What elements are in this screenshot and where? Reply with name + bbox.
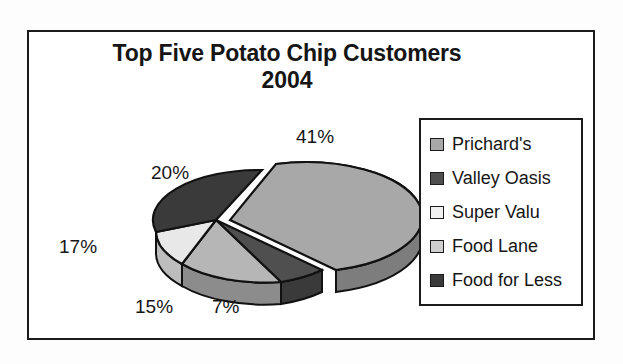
pie-label-food-for-less: 20%	[151, 162, 189, 184]
legend-swatch-icon-super-valu	[430, 206, 444, 219]
legend-swatch-icon-prichards	[430, 138, 444, 151]
pie-chart-graphic	[59, 112, 419, 327]
pie-label-super-valu: 17%	[59, 236, 97, 258]
chart-figure: Top Five Potato Chip Customers 2004	[0, 0, 623, 364]
pie-label-valley-oasis: 7%	[212, 296, 239, 318]
chart-legend: Prichard's Valley Oasis Super Valu Food …	[419, 118, 583, 306]
legend-label-food-lane: Food Lane	[452, 237, 538, 255]
legend-label-super-valu: Super Valu	[452, 203, 540, 221]
pie-chart: 41% 7% 15% 17% 20%	[59, 112, 419, 327]
legend-label-food-for-less: Food for Less	[452, 271, 562, 289]
pie-label-food-lane: 15%	[135, 296, 173, 318]
legend-label-valley-oasis: Valley Oasis	[452, 169, 551, 187]
pie-label-prichards: 41%	[296, 126, 334, 148]
chart-title-line1: Top Five Potato Chip Customers	[5, 40, 569, 67]
legend-label-prichards: Prichard's	[452, 135, 531, 153]
legend-item-prichards[interactable]: Prichard's	[430, 127, 581, 161]
legend-swatch-icon-food-for-less	[430, 274, 444, 287]
page-title: Top Five Potato Chip Customers 2004	[29, 40, 593, 94]
legend-item-super-valu[interactable]: Super Valu	[430, 195, 581, 229]
legend-item-food-lane[interactable]: Food Lane	[430, 229, 581, 263]
legend-item-valley-oasis[interactable]: Valley Oasis	[430, 161, 581, 195]
legend-swatch-icon-food-lane	[430, 240, 444, 253]
legend-swatch-icon-valley-oasis	[430, 172, 444, 185]
legend-item-food-for-less[interactable]: Food for Less	[430, 263, 581, 297]
chart-title-line2: 2004	[5, 67, 569, 94]
